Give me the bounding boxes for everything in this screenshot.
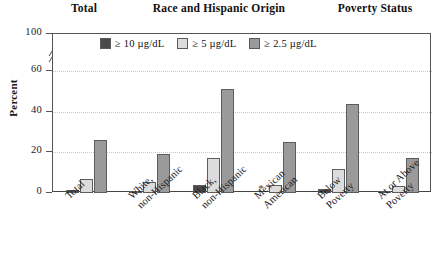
y-tick-label-0: 0 xyxy=(12,185,42,196)
x-axis-labels: TotalWhite, non-HispanicBlack, non-Hispa… xyxy=(52,193,431,268)
group-header-race-and-hispanic-origin: Race and Hispanic Origin xyxy=(128,2,310,14)
legend-swatch-icon-1 xyxy=(177,38,188,49)
group-header-poverty-status: Poverty Status xyxy=(318,2,432,14)
legend-label-1: ≥ 5 µg/dL xyxy=(192,38,236,49)
legend-swatch-icon-2 xyxy=(249,38,260,49)
legend-item-1[interactable]: ≥ 5 µg/dL xyxy=(177,38,236,49)
legend-item-2[interactable]: ≥ 2.5 µg/dL xyxy=(249,38,316,49)
legend-label-2: ≥ 2.5 µg/dL xyxy=(264,38,316,49)
group-header-total: Total xyxy=(48,2,120,14)
legend-swatch-icon-0 xyxy=(100,38,111,49)
group-header-row: Total Race and Hispanic Origin Poverty S… xyxy=(0,0,436,22)
y-tick-label-20: 20 xyxy=(12,144,42,155)
y-tick-label-100: 100 xyxy=(12,26,42,37)
legend-item-0[interactable]: ≥ 10 µg/dL xyxy=(100,38,164,49)
y-axis-title: Percent xyxy=(7,63,19,133)
lead-levels-bar-chart: Total Race and Hispanic Origin Poverty S… xyxy=(0,0,436,268)
legend-label-0: ≥ 10 µg/dL xyxy=(115,38,164,49)
legend: ≥ 10 µg/dL≥ 5 µg/dL≥ 2.5 µg/dL xyxy=(100,38,317,49)
